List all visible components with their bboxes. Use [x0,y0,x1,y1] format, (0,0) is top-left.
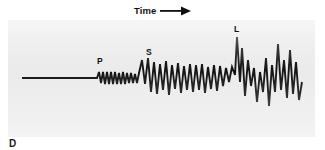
figure-part-letter: D [9,139,16,149]
time-axis-label: Time [134,3,192,18]
seismogram-panel [8,20,315,137]
time-axis-text: Time [134,6,156,16]
seismogram-trace [8,20,315,137]
phase-label-p: P [97,57,103,66]
phase-label-l: L [234,25,239,34]
phase-label-s: S [146,48,152,57]
seismogram-figure: Time P S L D [0,0,325,150]
right-arrow-icon [160,6,192,16]
